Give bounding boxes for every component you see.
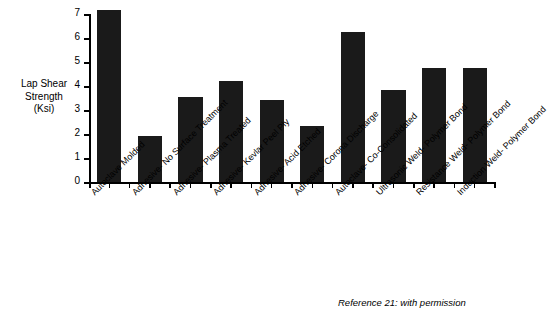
x-axis-tick (251, 182, 253, 188)
y-axis-tick-label: 5 (74, 55, 80, 67)
reference-footnote: Reference 21: with permission (338, 297, 466, 308)
y-axis-tick: 6 (84, 38, 89, 40)
x-axis-tick (169, 182, 171, 188)
y-axis-tick-label: 3 (74, 103, 80, 115)
y-axis-tick: 4 (84, 86, 89, 88)
x-axis-tick (129, 182, 131, 188)
y-axis-tick: 3 (84, 110, 89, 112)
bar (341, 32, 365, 182)
y-axis-title-line-2: Strength (10, 91, 78, 104)
y-axis-title: Lap Shear Strength (Ksi) (10, 78, 78, 116)
bar (97, 10, 121, 182)
y-axis-title-line-3: (Ksi) (10, 103, 78, 116)
x-axis-tick (332, 182, 334, 188)
y-axis-tick: 1 (84, 158, 89, 160)
x-axis-tick (372, 182, 374, 188)
x-axis-tick (494, 182, 496, 188)
y-axis-tick-label: 0 (74, 175, 80, 187)
y-axis-tick-label: 4 (74, 79, 80, 91)
y-axis-tick: 5 (84, 62, 89, 64)
x-axis-category-labels: Autoclave MoldedAdhesive- No Surface Tre… (89, 190, 504, 300)
y-axis-tick-label: 6 (74, 31, 80, 43)
y-axis-tick-label: 7 (74, 7, 80, 19)
y-axis-tick: 2 (84, 134, 89, 136)
y-axis-title-line-1: Lap Shear (10, 78, 78, 91)
x-axis-tick (454, 182, 456, 188)
x-axis-tick (413, 182, 415, 188)
y-axis-tick-label: 2 (74, 127, 80, 139)
y-axis-tick-label: 1 (74, 151, 80, 163)
y-axis-tick: 7 (84, 14, 89, 16)
x-axis-tick (291, 182, 293, 188)
x-axis-tick (210, 182, 212, 188)
